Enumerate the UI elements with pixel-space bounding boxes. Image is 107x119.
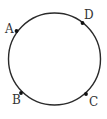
point-c: C [84, 92, 98, 109]
circle [9, 13, 101, 105]
point-label-c: C [89, 95, 98, 109]
point-label-b: B [12, 93, 21, 107]
point-d: D [81, 8, 94, 25]
point-b: B [12, 91, 23, 107]
point-marker-c [84, 92, 88, 96]
point-label-a: A [4, 22, 14, 36]
circle-diagram: ADBC [0, 0, 107, 119]
point-label-d: D [84, 8, 94, 22]
point-marker-a [15, 29, 19, 33]
